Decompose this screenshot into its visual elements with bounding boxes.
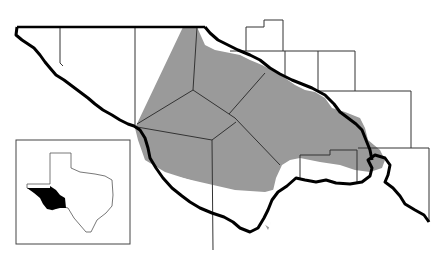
map-canvas	[0, 0, 448, 257]
inset-locator-map	[16, 140, 130, 244]
